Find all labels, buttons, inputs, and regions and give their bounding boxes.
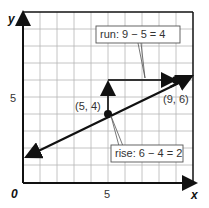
run-text: run: 9 − 5 = 4	[100, 28, 165, 40]
y-axis-label: y	[7, 12, 16, 26]
rise-callout: rise: 6 − 4 = 2	[111, 116, 183, 162]
point-label-5-4: (5, 4)	[75, 100, 101, 112]
x-axis-label: x	[190, 188, 199, 202]
coordinate-plane: run: 9 − 5 = 4 rise: 6 − 4 = 2 (5, 4) (9…	[0, 0, 209, 208]
point-9-6	[172, 76, 180, 84]
x-tick-5: 5	[104, 188, 110, 200]
point-label-9-6: (9, 6)	[163, 93, 189, 105]
origin-label: 0	[11, 187, 18, 201]
y-tick-5: 5	[10, 92, 16, 104]
run-callout: run: 9 − 5 = 4	[96, 26, 180, 78]
rise-text: rise: 6 − 4 = 2	[115, 147, 182, 159]
